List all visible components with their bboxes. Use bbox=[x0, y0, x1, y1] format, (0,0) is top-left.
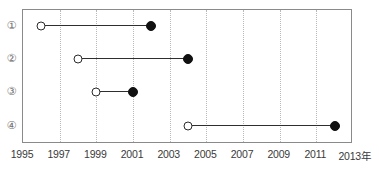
x-axis-label-1997: 1997 bbox=[47, 148, 70, 160]
timeline-chart: ① ② ③ ④ bbox=[0, 0, 379, 169]
y-axis-label-3: ③ bbox=[3, 84, 20, 98]
series-2-end-marker[interactable] bbox=[183, 54, 193, 64]
gridline-2009 bbox=[280, 10, 281, 142]
gridline-2011 bbox=[316, 10, 317, 142]
x-axis-label-2001: 2001 bbox=[121, 148, 144, 160]
y-axis-label-2: ② bbox=[3, 51, 20, 65]
series-3-start-marker[interactable] bbox=[92, 88, 101, 97]
gridline-1997 bbox=[60, 10, 61, 142]
gridline-2005 bbox=[206, 10, 207, 142]
series-1-start-marker[interactable] bbox=[37, 22, 46, 31]
gridline-2003 bbox=[170, 10, 171, 142]
series-4-end-marker[interactable] bbox=[330, 121, 340, 131]
x-axis-label-2005: 2005 bbox=[194, 148, 217, 160]
gridline-2001 bbox=[133, 10, 134, 142]
series-1-end-marker[interactable] bbox=[146, 21, 156, 31]
x-axis-label-2003: 2003 bbox=[157, 148, 180, 160]
series-3-end-marker[interactable] bbox=[128, 87, 138, 97]
gridline-1999 bbox=[96, 10, 97, 142]
y-axis-label-1: ① bbox=[3, 18, 20, 32]
gridline-2007 bbox=[243, 10, 244, 142]
series-2-connector bbox=[78, 58, 188, 59]
series-1-connector bbox=[41, 25, 151, 26]
series-2-start-marker[interactable] bbox=[74, 55, 83, 64]
y-axis-label-4: ④ bbox=[3, 118, 20, 132]
x-axis-label-2011: 2011 bbox=[304, 148, 326, 160]
x-axis-label-1999: 1999 bbox=[84, 148, 107, 160]
plot-area bbox=[22, 9, 352, 143]
x-axis-label-2009: 2009 bbox=[267, 148, 290, 160]
series-4-connector bbox=[188, 125, 335, 126]
series-4-start-marker[interactable] bbox=[184, 122, 193, 131]
x-axis-label-2013: 2013年 bbox=[338, 148, 370, 163]
x-axis-label-1995: 1995 bbox=[11, 148, 34, 160]
x-axis-label-2007: 2007 bbox=[231, 148, 254, 160]
